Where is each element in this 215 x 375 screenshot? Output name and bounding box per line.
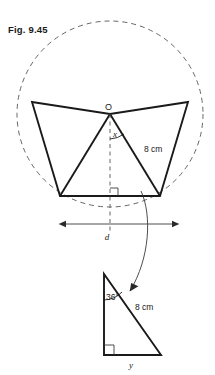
detail-hypotenuse-label: 8 cm [135, 302, 153, 312]
radius-length-label: 8 cm [144, 144, 162, 154]
detail-angle-label: 36° [106, 292, 119, 302]
radius-left-line [60, 114, 110, 196]
figure-number-label: Fig. 9.45 [8, 24, 48, 35]
right-angle-marker-detail [104, 345, 114, 355]
figure-container: Fig. 9.45 O x 8 cm d 36° [0, 0, 215, 375]
figure-svg: Fig. 9.45 O x 8 cm d 36° [0, 0, 215, 375]
detail-leader-arrow [130, 191, 148, 291]
center-point-label: O [105, 102, 112, 112]
radius-right-line [110, 114, 160, 196]
detail-base-label: y [128, 360, 133, 370]
angle-x-label: x [112, 129, 117, 139]
right-angle-marker-base [110, 188, 118, 196]
diameter-label: d [105, 232, 110, 242]
